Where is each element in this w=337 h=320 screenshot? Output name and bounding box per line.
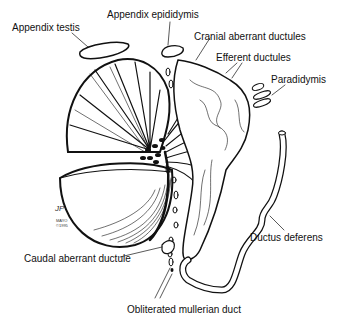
anatomy-diagram: Appendix testis Appendix epididymis Cran…	[0, 0, 337, 320]
label-appendix-epididymis: Appendix epididymis	[107, 9, 199, 20]
label-obliterated-mullerian-duct: Obliterated mullerian duct	[127, 304, 241, 315]
signature-year: ©1995	[56, 223, 68, 228]
label-appendix-testis: Appendix testis	[12, 22, 80, 33]
label-ductus-deferens: Ductus deferens	[250, 232, 323, 243]
artist-initials: JP	[55, 206, 64, 211]
label-caudal-aberrant-ductule: Caudal aberrant ductule	[24, 253, 131, 264]
label-efferent-ductules: Efferent ductules	[216, 52, 291, 63]
appendix-testis-shape	[80, 42, 129, 58]
caudal-aberrant-ductule-shape	[162, 241, 174, 254]
label-cranial-aberrant-ductules: Cranial aberrant ductules	[194, 31, 306, 42]
paradidymis-loops	[251, 82, 271, 109]
appendix-epididymis-shape	[162, 46, 184, 57]
testis-illustration	[0, 0, 337, 320]
label-paradidymis: Paradidymis	[271, 74, 326, 85]
